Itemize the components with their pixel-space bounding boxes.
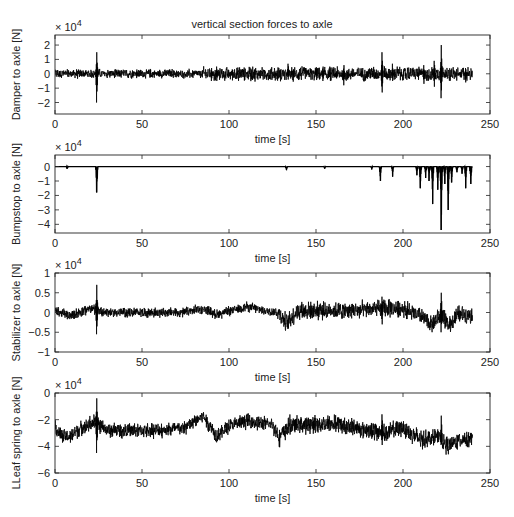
x-axis-label: time [s] bbox=[255, 133, 290, 145]
exponent-label: × 104 bbox=[55, 376, 82, 391]
x-axis-label: time [s] bbox=[255, 492, 290, 504]
x-tick-label: 250 bbox=[481, 237, 499, 249]
y-axis-label: Bumpstop to axle [N] bbox=[10, 143, 22, 245]
x-tick-label: 150 bbox=[307, 237, 325, 249]
y-tick-label: −0.5 bbox=[28, 326, 50, 338]
y-tick-label: 1 bbox=[44, 267, 50, 279]
y-tick-label: −2 bbox=[37, 414, 50, 426]
y-tick-label: 0.5 bbox=[35, 287, 50, 299]
x-axis-label: time [s] bbox=[255, 252, 290, 264]
x-tick-label: 100 bbox=[220, 237, 238, 249]
y-tick-label: −1 bbox=[37, 175, 50, 187]
x-tick-label: 150 bbox=[307, 118, 325, 130]
x-tick-label: 200 bbox=[394, 118, 412, 130]
y-tick-label: −4 bbox=[37, 218, 50, 230]
panel-stabilizer: 050100150200250−1−0.500.51× 104time [s]S… bbox=[10, 256, 499, 383]
y-axis-label: Stabilizer to axle [N] bbox=[10, 264, 22, 362]
y-tick-label: −3 bbox=[37, 204, 50, 216]
series-line bbox=[55, 285, 472, 334]
y-tick-label: −6 bbox=[37, 467, 50, 479]
series-line bbox=[55, 167, 472, 231]
y-tick-label: 0 bbox=[44, 387, 50, 399]
x-tick-label: 150 bbox=[307, 477, 325, 489]
x-tick-label: 0 bbox=[52, 237, 58, 249]
x-tick-label: 50 bbox=[136, 356, 148, 368]
x-tick-label: 250 bbox=[481, 477, 499, 489]
x-tick-label: 250 bbox=[481, 356, 499, 368]
y-tick-label: −1 bbox=[37, 82, 50, 94]
x-tick-label: 200 bbox=[394, 477, 412, 489]
x-tick-label: 200 bbox=[394, 356, 412, 368]
figure-title: vertical section forces to axle bbox=[191, 18, 332, 30]
exponent-label: × 104 bbox=[55, 256, 82, 271]
y-tick-label: 2 bbox=[44, 39, 50, 51]
y-tick-label: 1 bbox=[44, 53, 50, 65]
x-tick-label: 100 bbox=[220, 477, 238, 489]
series-line bbox=[55, 45, 472, 102]
x-tick-label: 50 bbox=[136, 477, 148, 489]
y-tick-label: −4 bbox=[37, 440, 50, 452]
x-tick-label: 150 bbox=[307, 356, 325, 368]
x-tick-label: 100 bbox=[220, 118, 238, 130]
x-axis-label: time [s] bbox=[255, 371, 290, 383]
y-tick-label: −2 bbox=[37, 97, 50, 109]
y-tick-label: 0 bbox=[44, 68, 50, 80]
x-tick-label: 100 bbox=[220, 356, 238, 368]
y-tick-label: 0 bbox=[44, 307, 50, 319]
series-line bbox=[55, 398, 472, 454]
panel-damper: 050100150200250−2−1012× 104time [s]Dampe… bbox=[10, 18, 499, 145]
panel-bumpstop: 050100150200250−4−3−2−10× 104time [s]Bum… bbox=[10, 138, 499, 264]
y-axis-label: LLeaf spring to axle [N] bbox=[10, 376, 22, 489]
exponent-label: × 104 bbox=[55, 18, 82, 33]
exponent-label: × 104 bbox=[55, 138, 82, 153]
x-tick-label: 0 bbox=[52, 118, 58, 130]
y-tick-label: −2 bbox=[37, 189, 50, 201]
x-tick-label: 50 bbox=[136, 237, 148, 249]
x-tick-label: 50 bbox=[136, 118, 148, 130]
figure-canvas: vertical section forces to axle 05010015… bbox=[0, 0, 514, 517]
y-tick-label: −1 bbox=[37, 346, 50, 358]
y-axis-label: Damper to axle [N] bbox=[10, 29, 22, 121]
panel-leaf-spring: 050100150200250−6−4−20× 104time [s]LLeaf… bbox=[10, 376, 499, 504]
y-tick-label: 0 bbox=[44, 161, 50, 173]
x-tick-label: 0 bbox=[52, 356, 58, 368]
x-tick-label: 0 bbox=[52, 477, 58, 489]
x-tick-label: 200 bbox=[394, 237, 412, 249]
x-tick-label: 250 bbox=[481, 118, 499, 130]
